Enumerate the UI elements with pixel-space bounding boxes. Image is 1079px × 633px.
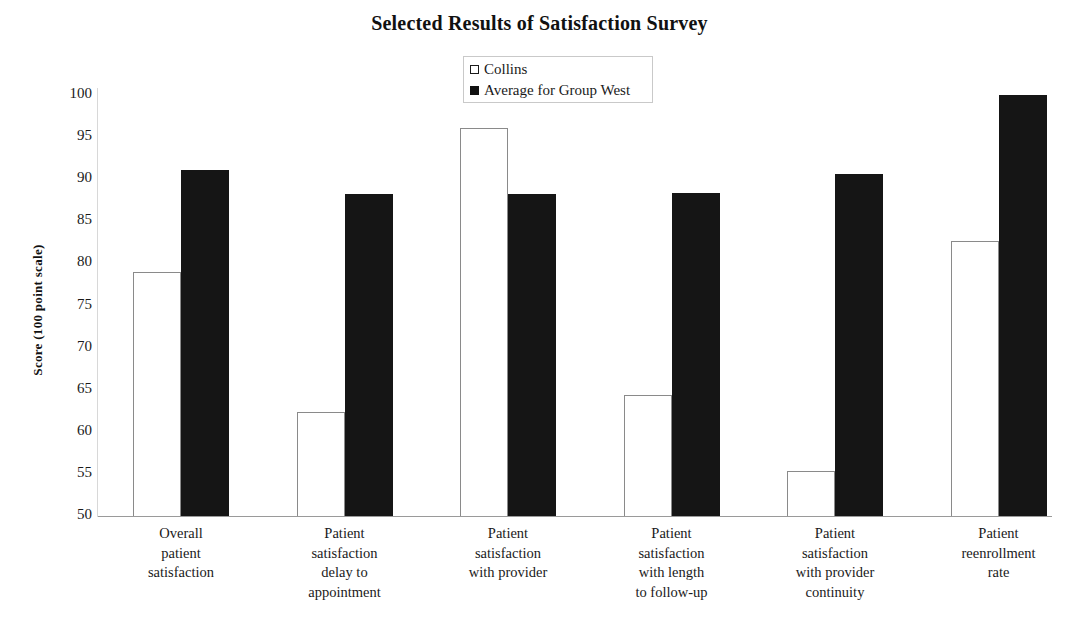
bar-group — [624, 95, 720, 516]
x-category-label: Patientsatisfactiondelay toappointment — [265, 524, 425, 602]
bar-collins[interactable] — [787, 471, 835, 516]
legend-label-collins: Collins — [484, 61, 527, 78]
y-tick-label: 55 — [48, 464, 92, 481]
y-tick-label: 65 — [48, 380, 92, 397]
y-tick-label: 75 — [48, 296, 92, 313]
x-category-label: Patientsatisfactionwith provider — [428, 524, 588, 583]
x-category-line: satisfaction — [265, 544, 425, 564]
bar-group — [787, 95, 883, 516]
y-tick-label: 70 — [48, 338, 92, 355]
y-tick-label: 60 — [48, 422, 92, 439]
y-tick-label: 95 — [48, 127, 92, 144]
x-category-label: Patientsatisfactionwith lengthto follow-… — [592, 524, 752, 602]
bar-group-west[interactable] — [672, 193, 720, 516]
y-tick-label: 80 — [48, 253, 92, 270]
x-category-line: with provider — [428, 563, 588, 583]
bar-group — [951, 95, 1047, 516]
bar-group-west[interactable] — [999, 95, 1047, 516]
x-category-line: to follow-up — [592, 583, 752, 603]
bar-group-west[interactable] — [345, 194, 393, 516]
x-category-line: Patient — [919, 524, 1079, 544]
x-category-line: rate — [919, 563, 1079, 583]
x-category-label: Patientsatisfactionwith providercontinui… — [755, 524, 915, 602]
y-axis-ticks: 10095908580757065605550 — [40, 95, 92, 516]
chart-canvas: Selected Results of Satisfaction Survey … — [0, 0, 1079, 633]
chart-title: Selected Results of Satisfaction Survey — [0, 12, 1079, 35]
bar-group-west[interactable] — [835, 174, 883, 516]
y-tick-label: 90 — [48, 169, 92, 186]
bar-group — [133, 95, 229, 516]
filled-square-icon — [470, 86, 479, 95]
x-category-line: Patient — [428, 524, 588, 544]
x-category-line: reenrollment — [919, 544, 1079, 564]
x-category-line: Patient — [592, 524, 752, 544]
x-category-line: with provider — [755, 563, 915, 583]
y-tick-label: 50 — [48, 506, 92, 523]
x-category-line: delay to — [265, 563, 425, 583]
bar-collins[interactable] — [460, 128, 508, 516]
y-tick-label: 85 — [48, 211, 92, 228]
bar-collins[interactable] — [951, 241, 999, 516]
bar-group — [297, 95, 393, 516]
x-category-line: Patient — [265, 524, 425, 544]
x-category-line: with length — [592, 563, 752, 583]
x-category-line: satisfaction — [101, 563, 261, 583]
x-category-line: satisfaction — [428, 544, 588, 564]
plot-area — [98, 95, 998, 516]
x-category-label: Overallpatientsatisfaction — [101, 524, 261, 583]
bar-collins[interactable] — [624, 395, 672, 516]
x-category-line: continuity — [755, 583, 915, 603]
y-tick-label: 100 — [48, 85, 92, 102]
bar-group — [460, 95, 556, 516]
bar-group-west[interactable] — [508, 194, 556, 516]
bar-collins[interactable] — [297, 412, 345, 516]
x-category-line: satisfaction — [755, 544, 915, 564]
bar-collins[interactable] — [133, 272, 181, 516]
x-axis-line — [98, 516, 1052, 517]
x-category-line: satisfaction — [592, 544, 752, 564]
x-category-line: appointment — [265, 583, 425, 603]
x-category-line: patient — [101, 544, 261, 564]
bar-group-west[interactable] — [181, 170, 229, 516]
x-category-line: Patient — [755, 524, 915, 544]
legend-item-collins: Collins — [470, 59, 652, 80]
x-category-line: Overall — [101, 524, 261, 544]
x-category-label: Patientreenrollmentrate — [919, 524, 1079, 583]
hollow-square-icon — [470, 65, 479, 74]
